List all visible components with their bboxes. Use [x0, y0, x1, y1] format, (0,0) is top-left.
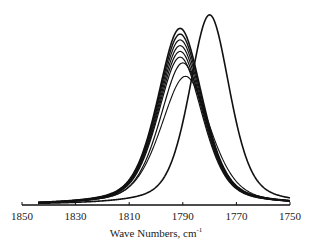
- spectra-curves: [38, 15, 290, 203]
- x-axis-label-superscript: -1: [196, 226, 202, 234]
- series-line-spectrum-8: [38, 76, 290, 202]
- x-tick-label: 1850: [11, 210, 34, 222]
- x-tick-label: 1750: [279, 210, 302, 222]
- x-tick-label: 1770: [225, 210, 248, 222]
- chart: 185018301810179017701750 Wave Numbers, c…: [0, 0, 321, 244]
- x-axis-label-text: Wave Numbers, cm: [110, 227, 197, 239]
- series-line-spectrum-shifted: [38, 15, 290, 203]
- x-tick-label: 1810: [118, 210, 141, 222]
- x-tick-label: 1830: [65, 210, 88, 222]
- x-tick-label: 1790: [172, 210, 195, 222]
- x-axis-label: Wave Numbers, cm-1: [110, 226, 203, 239]
